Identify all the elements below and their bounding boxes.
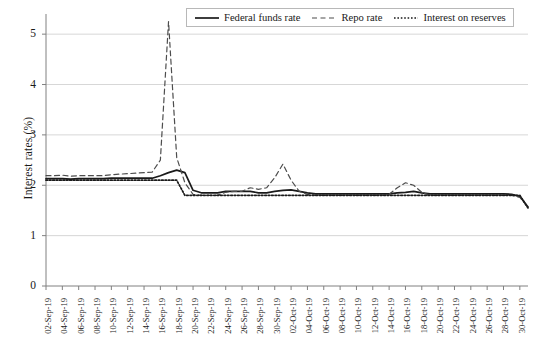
- x-tick-label: 24-Sep-19: [224, 298, 232, 354]
- legend-label: Federal funds rate: [224, 12, 300, 23]
- legend-swatch-dotted: [393, 13, 419, 22]
- x-tick-label: 08-Sep-19: [93, 298, 101, 354]
- x-tick-label: 16-Oct-19: [403, 298, 411, 354]
- legend-label: Repo rate: [341, 12, 382, 23]
- x-tick-label: 02-Sep-19: [44, 298, 52, 354]
- x-tick-label: 30-Oct-19: [518, 298, 526, 354]
- legend-swatch-solid: [194, 13, 220, 22]
- x-tick-label: 04-Sep-19: [60, 298, 68, 354]
- x-tick-label: 28-Sep-19: [256, 298, 264, 354]
- x-tick-label: 12-Oct-19: [371, 298, 379, 354]
- x-tick-label: 10-Sep-19: [109, 298, 117, 354]
- x-tick-label: 24-Oct-19: [469, 298, 477, 354]
- axis-lines: [46, 14, 528, 286]
- x-tick-label: 10-Oct-19: [354, 298, 362, 354]
- x-tick-label: 14-Oct-19: [387, 298, 395, 354]
- legend-item: Federal funds rate: [194, 12, 300, 23]
- x-tick-label: 26-Oct-19: [485, 298, 493, 354]
- y-tick-label: 2: [8, 179, 36, 190]
- x-tick-label: 16-Sep-19: [158, 298, 166, 354]
- x-tick-label: 20-Oct-19: [436, 298, 444, 354]
- series-line: [46, 170, 528, 207]
- legend-swatch-dashed: [311, 13, 337, 22]
- y-tick-label: 1: [8, 230, 36, 241]
- y-tick-label: 5: [8, 28, 36, 39]
- x-tick-label: 26-Sep-19: [240, 298, 248, 354]
- x-tick-label: 04-Oct-19: [305, 298, 313, 354]
- x-tick-label: 18-Oct-19: [420, 298, 428, 354]
- x-tick-marks: [46, 286, 520, 290]
- x-tick-label: 22-Oct-19: [452, 298, 460, 354]
- x-tick-label: 02-Oct-19: [289, 298, 297, 354]
- legend-label: Interest on reserves: [423, 12, 505, 23]
- legend-item: Repo rate: [311, 12, 382, 23]
- x-tick-label: 14-Sep-19: [142, 298, 150, 354]
- x-tick-label: 08-Oct-19: [338, 298, 346, 354]
- x-tick-label: 06-Oct-19: [322, 298, 330, 354]
- y-tick-label: 4: [8, 79, 36, 90]
- data-series-layer: [46, 22, 528, 208]
- y-tick-label: 3: [8, 129, 36, 140]
- x-tick-label: 20-Sep-19: [191, 298, 199, 354]
- y-tick-label: 0: [8, 280, 36, 291]
- x-tick-label: 06-Sep-19: [77, 298, 85, 354]
- x-tick-label: 28-Oct-19: [501, 298, 509, 354]
- x-tick-label: 30-Sep-19: [273, 298, 281, 354]
- legend-item: Interest on reserves: [393, 12, 505, 23]
- gridlines: [46, 34, 528, 235]
- x-tick-label: 12-Sep-19: [126, 298, 134, 354]
- y-tick-marks: [42, 34, 46, 286]
- chart-legend: Federal funds rateRepo rateInterest on r…: [186, 8, 514, 27]
- x-tick-label: 18-Sep-19: [175, 298, 183, 354]
- interest-rates-chart: Interest rates (%) 012345 02-Sep-1904-Se…: [0, 0, 550, 354]
- x-tick-label: 22-Sep-19: [207, 298, 215, 354]
